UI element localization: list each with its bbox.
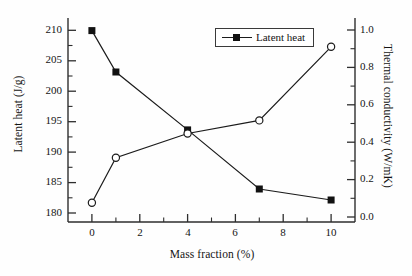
ytick-label-left: 205 (22, 53, 62, 65)
ytick-label-right: 0.6 (360, 97, 400, 109)
series-thermal-conductivity-line (92, 47, 331, 203)
x-axis-title: Mass fraction (%) (68, 248, 356, 260)
xtick-label: 0 (77, 226, 107, 238)
ytick-label-left: 200 (22, 84, 62, 96)
ytick-label-left: 210 (22, 23, 62, 35)
ytick-label-right: 0.2 (360, 172, 400, 184)
chart-plot-area (0, 0, 412, 276)
chart-figure: 210 205 200 195 190 185 180 1.0 0.8 0.6 … (0, 0, 412, 276)
ytick-label-left: 180 (22, 206, 62, 218)
y-axis-title-right: Thermal conductivity (W/mK) (382, 36, 394, 196)
ytick-label-right: 0.4 (360, 135, 400, 147)
xtick-label: 10 (316, 226, 346, 238)
ytick-label-right: 1.0 (360, 23, 400, 35)
legend-marker-latent-heat (222, 33, 252, 42)
ytick-label-left: 185 (22, 175, 62, 187)
series-thermal-conductivity-markers (88, 43, 334, 206)
axis-left-major-ticks (68, 30, 76, 213)
ytick-label-left: 190 (22, 145, 62, 157)
xtick-label: 2 (125, 226, 155, 238)
ytick-label-right: 0.0 (360, 210, 400, 222)
series-latent-heat-markers (88, 27, 334, 203)
y-axis-title-left: Latent heat (J/g) (12, 39, 24, 189)
ytick-label-left: 195 (22, 114, 62, 126)
series-latent-heat-line (92, 31, 331, 200)
xtick-label: 4 (173, 226, 203, 238)
xtick-label: 8 (268, 226, 298, 238)
xtick-label: 6 (220, 226, 250, 238)
legend-label-latent-heat: Latent heat (256, 31, 305, 43)
chart-legend: Latent heat (215, 28, 314, 47)
ytick-label-right: 0.8 (360, 60, 400, 72)
